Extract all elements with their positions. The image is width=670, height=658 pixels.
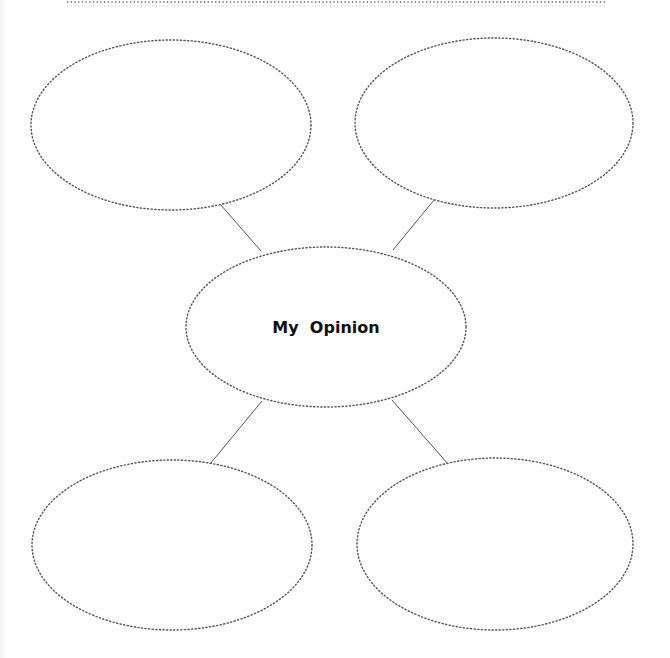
bubble-bottom-left[interactable] <box>32 460 312 630</box>
connector-top-left <box>220 204 261 251</box>
connector-bottom-right <box>392 400 448 464</box>
bubble-bottom-right[interactable] <box>357 458 633 630</box>
center-bubble-label: My Opinion <box>186 247 466 407</box>
bubble-top-right[interactable] <box>355 38 633 208</box>
bubble-top-left[interactable] <box>31 40 311 210</box>
connector-bottom-left <box>210 401 262 464</box>
connector-top-right <box>393 200 434 250</box>
